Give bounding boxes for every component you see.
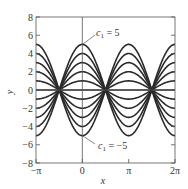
annotation-leader-top: [83, 35, 95, 44]
y-tick-label: 8: [28, 12, 33, 23]
y-tick-label: 2: [28, 66, 33, 77]
annot-top-val: = 5: [104, 27, 120, 38]
chart: −8−6−4−202468−π0π2π x y c1 = 5 c1 = −5: [0, 0, 188, 189]
annotation-c1-neg5: c1 = −5: [98, 140, 127, 153]
x-tick-label: 2π: [170, 165, 180, 176]
x-tick-label: π: [126, 165, 131, 176]
y-tick-label: 4: [28, 48, 33, 59]
x-tick-label: 0: [80, 165, 85, 176]
y-axis-label: y: [4, 89, 15, 95]
y-tick-label: −2: [22, 103, 33, 114]
y-tick-label: 6: [28, 30, 33, 41]
y-tick-label: −6: [22, 139, 33, 150]
annotation-leader-bottom: [83, 136, 95, 144]
x-axis-label: x: [100, 175, 106, 186]
y-tick-label: 0: [28, 85, 33, 96]
x-tick-label: −π: [31, 165, 42, 176]
annotation-c1-5: c1 = 5: [96, 27, 120, 40]
annot-bot-val: = −5: [106, 140, 127, 151]
y-tick-label: −4: [22, 121, 33, 132]
